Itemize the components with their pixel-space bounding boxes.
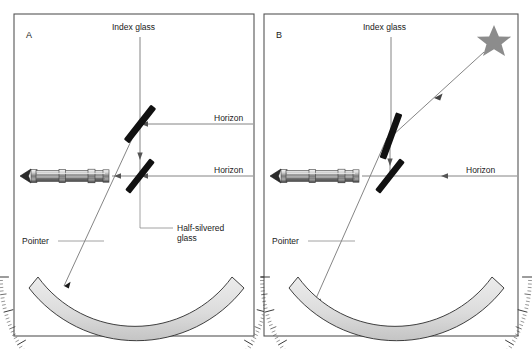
arc-tick: [519, 324, 523, 325]
arc-tick: [2, 304, 6, 305]
arc-tick: [253, 337, 256, 339]
arc-tick: [1, 298, 5, 299]
arc-tick: [505, 340, 514, 345]
arc-tick: [254, 334, 257, 336]
horizon-label-lower-a: Horizon: [214, 165, 244, 175]
arc-tick: [14, 337, 17, 339]
panel-a-letter: A: [26, 30, 32, 40]
arc-tick: [0, 294, 6, 295]
arc-tick: [258, 324, 262, 325]
arc-tick: [275, 337, 278, 339]
sextant-figure: A Index glass Horizon Horizon Half-silve…: [0, 0, 532, 349]
arc-tick: [280, 346, 283, 348]
arc-tick: [527, 298, 531, 299]
telescope-icon-a: [20, 169, 109, 183]
arc-tick: [276, 340, 279, 342]
arc-tick: [248, 346, 251, 348]
arc-tick: [526, 301, 530, 302]
half-silvered-label-line1: Half-silvered: [177, 223, 225, 233]
arc-tick: [19, 346, 22, 348]
pointer-label-a: Pointer: [22, 236, 49, 246]
arc-tick: [512, 340, 515, 342]
arc-tick: [244, 340, 253, 345]
arc-tick: [256, 331, 260, 333]
arc-tick: [15, 340, 18, 342]
half-silvered-label-line2: glass: [177, 233, 197, 243]
horizon-label-upper-a: Horizon: [214, 113, 244, 123]
telescope-icon-b: [270, 169, 359, 183]
arc-tick: [521, 321, 525, 322]
arc-tick: [17, 340, 26, 345]
index-glass-label-b: Index glass: [363, 22, 406, 32]
horizon-label-b: Horizon: [466, 165, 496, 175]
arc-tick: [4, 310, 14, 313]
arc-tick: [278, 340, 287, 345]
arc-tick: [523, 315, 527, 316]
arc-tick: [255, 327, 261, 329]
arc-tick: [7, 321, 11, 322]
pointer-label-b: Pointer: [272, 236, 299, 246]
arc-tick: [524, 294, 530, 295]
panel-a: A Index glass Horizon Horizon Half-silve…: [0, 14, 271, 349]
arc-tick: [522, 318, 526, 319]
arc-tick: [514, 337, 517, 339]
arc-tick: [6, 318, 10, 319]
panel-b-letter: B: [276, 30, 282, 40]
arc-tick: [1, 301, 5, 302]
figure-canvas: A Index glass Horizon Horizon Half-silve…: [0, 0, 532, 349]
arc-tick: [525, 308, 529, 309]
index-glass-label-a: Index glass: [112, 22, 155, 32]
arc-tick: [251, 340, 254, 342]
arc-tick: [8, 324, 12, 325]
arc-tick: [3, 308, 7, 309]
panel-b: B Index glass Horizon Pointer: [260, 14, 532, 349]
arc-tick: [5, 315, 9, 316]
arc-tick: [509, 346, 512, 348]
arc-tick: [260, 321, 264, 322]
arc-tick: [518, 310, 528, 313]
arc-tick: [525, 304, 529, 305]
